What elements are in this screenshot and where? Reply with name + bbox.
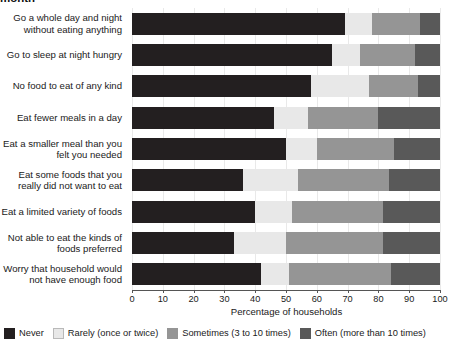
stacked-bar [132, 201, 440, 223]
category-label: Not able to eat the kinds of foods prefe… [0, 232, 122, 255]
legend-swatch-icon [53, 328, 64, 339]
x-tick [255, 290, 256, 293]
legend-item[interactable]: Never [4, 328, 44, 339]
x-tick-label: 80 [363, 294, 393, 305]
stacked-bar [132, 13, 440, 35]
stacked-bar [132, 75, 440, 97]
category-axis-labels: Go a whole day and night without eating … [0, 8, 128, 290]
bar-segment-rarely[interactable] [345, 13, 373, 35]
category-label: Eat a limited variety of foods [0, 206, 122, 218]
x-axis-title: Percentage of households [132, 306, 441, 317]
bar-segment-never[interactable] [132, 232, 234, 254]
bar-segment-often[interactable] [391, 263, 440, 285]
bar-row[interactable] [132, 107, 440, 129]
bar-rows [132, 8, 440, 290]
bar-segment-often[interactable] [389, 169, 440, 191]
x-tick [194, 290, 195, 293]
category-label: Go a whole day and night without eating … [0, 12, 122, 35]
bar-segment-often[interactable] [415, 44, 440, 66]
x-tick [132, 290, 133, 293]
bar-segment-never[interactable] [132, 75, 311, 97]
bar-segment-often[interactable] [378, 107, 440, 129]
legend-swatch-icon [300, 328, 311, 339]
x-tick-label: 30 [209, 294, 239, 305]
legend-label: Sometimes (3 to 10 times) [182, 328, 291, 339]
x-tick-label: 40 [240, 294, 270, 305]
bar-row[interactable] [132, 232, 440, 254]
legend-swatch-icon [167, 328, 178, 339]
x-tick-label: 100 [425, 294, 452, 305]
legend-item[interactable]: Rarely (once or twice) [53, 328, 158, 339]
x-tick-label: 70 [333, 294, 363, 305]
bar-segment-sometimes[interactable] [292, 201, 383, 223]
stacked-bar [132, 232, 440, 254]
x-tick [348, 290, 349, 293]
x-tick-label: 90 [394, 294, 424, 305]
bar-segment-never[interactable] [132, 44, 332, 66]
bar-segment-often[interactable] [394, 138, 440, 160]
gridline [440, 8, 441, 290]
x-tick [440, 290, 441, 293]
bar-row[interactable] [132, 44, 440, 66]
stacked-bar [132, 169, 440, 191]
x-tick-label: 20 [179, 294, 209, 305]
bar-row[interactable] [132, 138, 440, 160]
x-tick-label: 60 [302, 294, 332, 305]
legend-label: Often (more than 10 times) [315, 328, 426, 339]
bar-segment-rarely[interactable] [286, 138, 317, 160]
bar-segment-sometimes[interactable] [317, 138, 394, 160]
bar-segment-sometimes[interactable] [360, 44, 415, 66]
category-label: No food to eat of any kind [0, 80, 122, 92]
category-label: Go to sleep at night hungry [0, 49, 122, 61]
bar-segment-often[interactable] [383, 201, 440, 223]
category-label: Eat fewer meals in a day [0, 112, 122, 124]
bar-segment-rarely[interactable] [274, 107, 308, 129]
x-tick [317, 290, 318, 293]
bar-segment-sometimes[interactable] [308, 107, 379, 129]
bar-segment-rarely[interactable] [261, 263, 289, 285]
bar-row[interactable] [132, 169, 440, 191]
chart-title: month [0, 0, 130, 6]
stacked-bar [132, 263, 440, 285]
bar-segment-never[interactable] [132, 13, 345, 35]
bar-segment-often[interactable] [418, 75, 440, 97]
bar-segment-sometimes[interactable] [286, 232, 383, 254]
bar-segment-rarely[interactable] [243, 169, 298, 191]
bar-segment-rarely[interactable] [255, 201, 292, 223]
x-tick [286, 290, 287, 293]
legend-item[interactable]: Sometimes (3 to 10 times) [167, 328, 291, 339]
bar-segment-sometimes[interactable] [289, 263, 391, 285]
bar-row[interactable] [132, 201, 440, 223]
legend-swatch-icon [4, 328, 15, 339]
bar-segment-often[interactable] [383, 232, 440, 254]
x-tick [409, 290, 410, 293]
category-label: Eat a smaller meal than you felt you nee… [0, 138, 122, 161]
category-label: Worry that household would not have enou… [0, 263, 122, 286]
legend-item[interactable]: Often (more than 10 times) [300, 328, 426, 339]
bar-row[interactable] [132, 13, 440, 35]
bar-segment-sometimes[interactable] [369, 75, 418, 97]
bar-row[interactable] [132, 263, 440, 285]
bar-segment-rarely[interactable] [311, 75, 370, 97]
bar-segment-sometimes[interactable] [298, 169, 389, 191]
legend-label: Rarely (once or twice) [68, 328, 158, 339]
x-tick [163, 290, 164, 293]
bar-segment-never[interactable] [132, 169, 243, 191]
bar-segment-sometimes[interactable] [372, 13, 420, 35]
bar-segment-never[interactable] [132, 107, 274, 129]
bar-segment-never[interactable] [132, 138, 286, 160]
bar-segment-rarely[interactable] [332, 44, 360, 66]
bar-row[interactable] [132, 75, 440, 97]
stacked-bar [132, 44, 440, 66]
bar-segment-rarely[interactable] [234, 232, 286, 254]
x-tick [378, 290, 379, 293]
x-tick-label: 50 [271, 294, 301, 305]
plot-area [132, 8, 440, 290]
bar-segment-often[interactable] [420, 13, 440, 35]
bar-segment-never[interactable] [132, 201, 255, 223]
x-tick-label: 10 [148, 294, 178, 305]
bar-segment-never[interactable] [132, 263, 261, 285]
x-tick-label: 0 [117, 294, 147, 305]
legend-label: Never [19, 328, 44, 339]
